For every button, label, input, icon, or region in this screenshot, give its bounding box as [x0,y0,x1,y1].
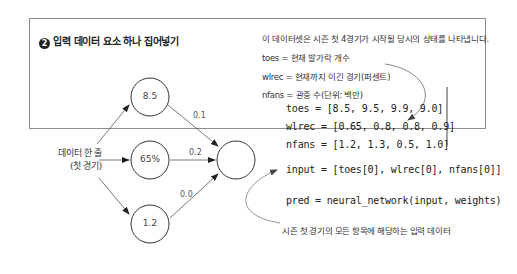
node-value-nfans: 1.2 [130,218,170,228]
output-node [217,141,255,179]
code-nfans: nfans = [1.2, 1.3, 0.5, 1.0] [286,139,449,150]
code-input: input = [toes[0], wlrec[0], nfans[0]] [286,164,501,175]
node-value-wlrec: 65% [130,154,170,164]
weight-label-1: 0.1 [193,111,206,120]
node-value-toes: 8.5 [130,91,170,101]
weight-label-3: 0.0 [180,190,193,199]
description-toes: toes = 현재 발가락 개수 [262,51,349,63]
weight-label-2: 0.2 [189,148,202,157]
code-wlrec: wlrec = [0.65, 0.8, 0.8, 0.9] [286,121,455,132]
data-row-label: 데이터 한 줄 (첫 경기) [49,147,102,173]
row-label-line2: (첫 경기) [49,160,102,173]
description-nfans: nfans = 관중 수(단위: 백만) [262,88,363,100]
description-wlrec: wlrec = 현재까지 이긴 경기(퍼센트) [262,70,390,82]
code-toes: toes = [8.5, 9.5, 9.9, 9.0] [286,103,443,114]
description-intro: 이 데이터셋은 시즌 첫 4경기가 시작될 당시의 상태를 나타냅니다. [262,32,489,44]
code-pred: pred = neural_network(input, weights) [286,195,501,206]
input-data-caption: 시즌 첫 경기의 모든 항목에 해당하는 입력 데이터 [282,224,450,236]
row-label-line1: 데이터 한 줄 [49,147,102,160]
